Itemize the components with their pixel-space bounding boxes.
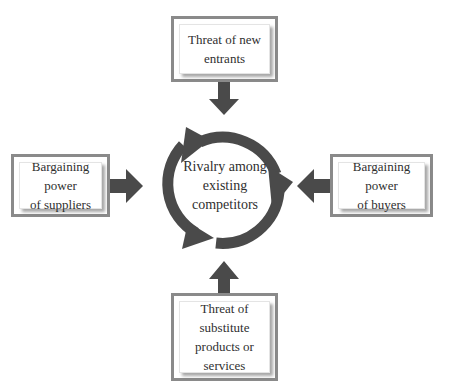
force-bargaining-power-of-suppliers: Bargaining power of suppliers xyxy=(11,154,110,217)
force-label-line: Threat of xyxy=(195,299,254,318)
center-rivalry-label: Rivalry among existing competitors xyxy=(167,140,283,230)
force-label-line: Bargaining power xyxy=(338,157,425,195)
force-label-line: Threat of new xyxy=(188,30,261,49)
force-threat-of-new-entrants: Threat of new entrants xyxy=(171,16,278,82)
force-label-line: substitute xyxy=(195,318,254,337)
force-label-line: entrants xyxy=(188,49,261,68)
arrow-up-icon xyxy=(209,261,239,296)
arrow-right-icon xyxy=(110,169,143,203)
force-label-line: of suppliers xyxy=(19,195,102,214)
center-label-line: competitors xyxy=(183,195,267,214)
force-label-line: of buyers xyxy=(338,195,425,214)
center-label-line: Rivalry among xyxy=(183,157,267,176)
center-label-line: existing xyxy=(183,176,267,195)
arrow-left-icon xyxy=(297,169,330,203)
force-label-line: products or xyxy=(195,337,254,356)
force-bargaining-power-of-buyers: Bargaining power of buyers xyxy=(330,154,433,217)
force-label-line: services xyxy=(195,356,254,375)
force-label-line: Bargaining power xyxy=(19,157,102,195)
arrow-down-icon xyxy=(209,82,239,115)
force-threat-of-substitutes: Threat of substitute products or service… xyxy=(171,293,278,381)
